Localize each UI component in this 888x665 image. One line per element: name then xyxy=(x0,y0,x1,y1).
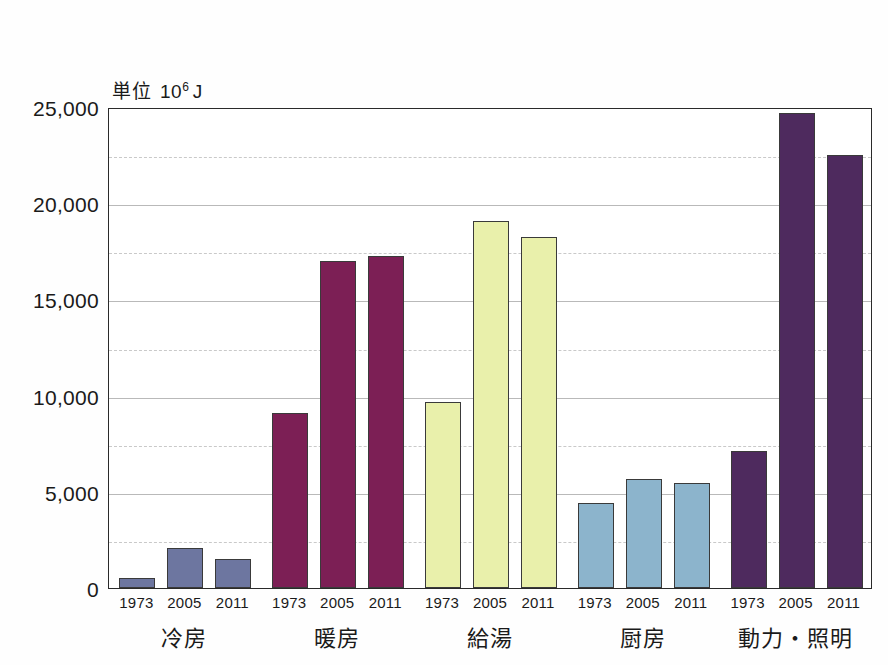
unit-label: 単位106J xyxy=(112,76,203,103)
y-axis-tick-label: 0 xyxy=(87,578,99,602)
bar-冷房-2011 xyxy=(215,559,251,588)
bar-暖房-2005 xyxy=(320,261,356,588)
x-axis-tick-label: 2005 xyxy=(160,594,208,611)
bar-給湯-2011 xyxy=(521,237,557,588)
unit-label-base: 10 xyxy=(160,81,182,102)
bar-暖房-2011 xyxy=(368,256,404,588)
x-axis-tick-label: 1973 xyxy=(418,594,466,611)
x-axis-group-label: 動力・照明 xyxy=(699,620,888,652)
unit-label-prefix: 単位 xyxy=(112,81,151,102)
bar-動力・照明-1973 xyxy=(731,451,767,588)
y-axis-tick-label: 15,000 xyxy=(33,289,99,313)
x-axis-tick-label: 2005 xyxy=(313,594,361,611)
x-axis-tick-label: 1973 xyxy=(265,594,313,611)
bar-厨房-1973 xyxy=(578,503,614,588)
x-axis-tick-label: 2011 xyxy=(208,594,256,611)
x-axis-tick-label: 2005 xyxy=(466,594,514,611)
unit-label-unit: J xyxy=(193,81,203,102)
bar-給湯-1973 xyxy=(425,402,461,588)
x-axis-tick-label: 2011 xyxy=(361,594,409,611)
x-axis-tick-label: 1973 xyxy=(724,594,772,611)
bar-冷房-2005 xyxy=(167,548,203,588)
bar-冷房-1973 xyxy=(119,578,155,588)
y-axis-tick-label: 5,000 xyxy=(45,482,99,506)
bar-給湯-2005 xyxy=(473,221,509,588)
x-axis-tick-label: 1973 xyxy=(571,594,619,611)
x-axis-tick-label: 2011 xyxy=(514,594,562,611)
bar-厨房-2011 xyxy=(674,483,710,588)
bar-動力・照明-2011 xyxy=(827,155,863,588)
plot-area: 05,00010,00015,00020,00025,000 xyxy=(108,108,872,589)
x-axis-tick-label: 2011 xyxy=(820,594,868,611)
bar-厨房-2005 xyxy=(626,479,662,588)
y-axis-tick-label: 10,000 xyxy=(33,386,99,410)
unit-label-exponent: 6 xyxy=(182,80,189,94)
gridline-major xyxy=(109,205,871,206)
x-axis-tick-label: 2005 xyxy=(619,594,667,611)
bar-動力・照明-2005 xyxy=(779,113,815,588)
plot-inner: 05,00010,00015,00020,00025,000 xyxy=(109,109,871,588)
y-axis-tick-label: 25,000 xyxy=(33,97,99,121)
chart-figure: 単位106J 05,00010,00015,00020,00025,000 19… xyxy=(0,0,888,665)
bar-暖房-1973 xyxy=(272,413,308,588)
x-axis-tick-label: 2005 xyxy=(772,594,820,611)
x-axis-tick-label: 1973 xyxy=(112,594,160,611)
y-axis-tick-label: 20,000 xyxy=(33,193,99,217)
x-axis-tick-label: 2011 xyxy=(667,594,715,611)
gridline-minor xyxy=(109,157,871,158)
